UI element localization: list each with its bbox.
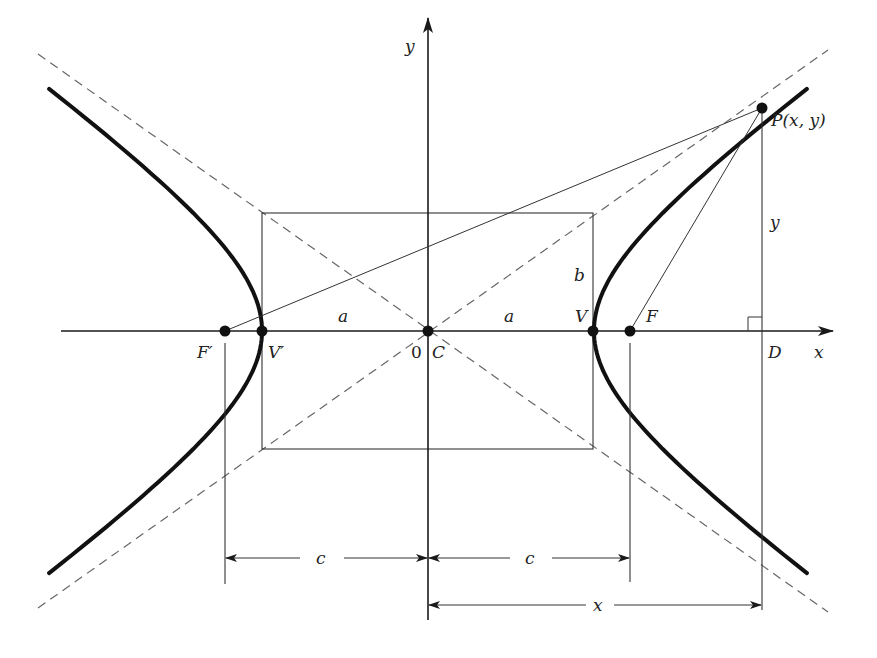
label-f: F: [645, 306, 659, 326]
label-c-right-dim: c: [525, 548, 535, 568]
label-v: V: [575, 306, 589, 326]
label-a-right: a: [504, 306, 514, 326]
label-b: b: [574, 265, 585, 285]
x-axis-label: x: [814, 342, 824, 362]
right-angle-marker: [748, 317, 762, 331]
label-x-dim: x: [593, 595, 603, 615]
y-axis-label: y: [404, 36, 415, 56]
hyperbola-diagram: y x 0 C V V′ F F′ P(x, y) D a a b y c c …: [0, 0, 877, 658]
focal-line-right: [630, 108, 762, 331]
point-v: [588, 326, 599, 337]
point-c: [423, 326, 434, 337]
point-f-prime: [220, 326, 231, 337]
point-p: [757, 103, 768, 114]
point-v-prime: [257, 326, 268, 337]
label-f-prime: F′: [196, 342, 213, 362]
label-c: C: [432, 342, 445, 362]
label-d: D: [767, 342, 782, 362]
origin-label: 0: [411, 342, 422, 362]
label-y-segment: y: [769, 212, 780, 232]
label-v-prime: V′: [268, 342, 284, 362]
label-p: P(x, y): [770, 110, 826, 130]
label-c-left-dim: c: [316, 548, 326, 568]
point-f: [625, 326, 636, 337]
label-a-left: a: [338, 306, 348, 326]
focal-line-left: [225, 108, 762, 331]
